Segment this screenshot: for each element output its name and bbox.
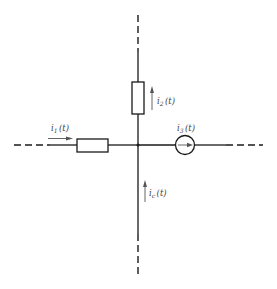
circuit-node-diagram: i1(t) i2(t) i3(t) ic(t) (0, 0, 277, 289)
ic-label: ic(t) (149, 188, 167, 199)
i3-label: i3(t) (177, 123, 195, 134)
i1-arrow-icon (66, 137, 73, 141)
resistor-left (77, 139, 108, 152)
resistor-top (132, 82, 144, 114)
i1-label: i1(t) (51, 123, 69, 134)
i2-arrow-icon (150, 86, 154, 93)
i2-label: i2(t) (157, 96, 175, 107)
ic-arrow-icon (143, 180, 147, 187)
junction-node (137, 144, 140, 147)
